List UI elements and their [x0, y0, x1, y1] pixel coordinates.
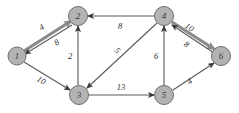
edge-2-to-1	[25, 25, 72, 54]
edge-1-to-2	[24, 21, 71, 51]
edge-weight-2-1: 8	[52, 36, 62, 47]
graph-diagram: 48102856108134 123456	[0, 0, 239, 113]
node-label-2: 2	[76, 11, 81, 21]
node-label-5: 5	[162, 90, 167, 100]
node-label-4: 4	[162, 11, 167, 21]
edge-1-to-3	[24, 62, 70, 90]
edge-weight-5-4: 6	[154, 51, 159, 61]
edge-weight-4-3: 5	[113, 45, 123, 55]
edge-weight-1-2: 4	[37, 21, 47, 32]
edge-4-to-3	[87, 23, 157, 88]
edge-labels-layer: 48102856108134	[35, 21, 196, 92]
graph-canvas: 48102856108134 123456	[0, 0, 239, 113]
node-label-6: 6	[219, 51, 224, 61]
edge-5-to-6	[173, 63, 214, 90]
node-label-3: 3	[76, 90, 82, 100]
node-label-1: 1	[15, 51, 20, 61]
edge-weight-6-4: 8	[182, 39, 192, 50]
edge-weight-3-5: 13	[117, 82, 126, 92]
edge-weight-4-2: 8	[118, 21, 123, 31]
edge-weight-3-2: 2	[68, 51, 73, 61]
